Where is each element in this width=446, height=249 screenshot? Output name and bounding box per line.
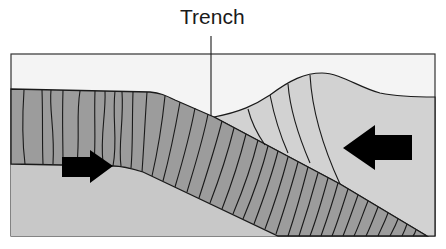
subduction-diagram	[0, 0, 446, 249]
